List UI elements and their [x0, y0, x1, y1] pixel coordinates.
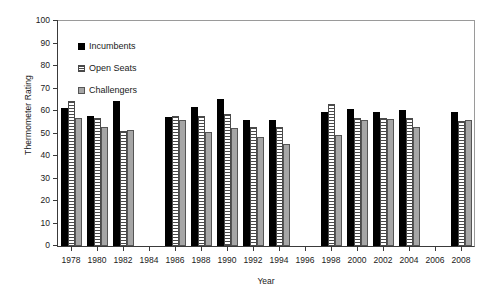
legend-item-challengers: Challengers: [78, 82, 137, 98]
bar-challengers-1994: [283, 144, 290, 246]
y-tick-label: 70: [24, 83, 50, 94]
bar-open-2000: [354, 118, 361, 246]
legend-label-challengers: Challengers: [89, 85, 137, 95]
y-tick-mark: [53, 20, 58, 21]
x-tick-mark: [305, 246, 306, 251]
bar-challengers-2008: [465, 120, 472, 246]
y-tick-label: 20: [24, 195, 50, 206]
y-tick-label: 100: [24, 15, 50, 26]
y-tick-label: 60: [24, 105, 50, 116]
bar-challengers-2002: [387, 119, 394, 246]
bar-incumbents-1990: [217, 99, 224, 246]
bar-incumbents-1994: [269, 120, 276, 246]
y-tick-mark: [53, 88, 58, 89]
x-tick-mark: [149, 246, 150, 251]
bar-open-2008: [458, 121, 465, 246]
y-tick-mark: [53, 110, 58, 111]
thermometer-rating-bar-chart: Thermometer Rating 010203040506070809010…: [0, 0, 497, 302]
x-tick-mark: [175, 246, 176, 251]
x-tick-mark: [383, 246, 384, 251]
chart-legend: IncumbentsOpen SeatsChallengers: [78, 38, 137, 104]
bar-challengers-1998: [335, 135, 342, 246]
legend-swatch-incumbents-icon: [78, 43, 85, 50]
bar-incumbents-1978: [61, 108, 68, 246]
legend-swatch-open-icon: [78, 65, 85, 72]
bar-open-2004: [406, 118, 413, 246]
y-tick-label: 50: [24, 128, 50, 139]
y-tick-mark: [53, 43, 58, 44]
legend-label-incumbents: Incumbents: [89, 41, 136, 51]
bar-open-2002: [380, 118, 387, 246]
y-tick-label: 30: [24, 173, 50, 184]
y-tick-mark: [53, 133, 58, 134]
bar-incumbents-1986: [165, 117, 172, 246]
y-tick-label: 90: [24, 38, 50, 49]
x-tick-mark: [435, 246, 436, 251]
x-tick-mark: [279, 246, 280, 251]
bar-open-1980: [94, 118, 101, 246]
y-tick-label: 0: [24, 240, 50, 251]
legend-item-incumbents: Incumbents: [78, 38, 137, 54]
y-tick-mark: [53, 178, 58, 179]
x-tick-mark: [331, 246, 332, 251]
legend-label-open: Open Seats: [89, 63, 137, 73]
bar-incumbents-1982: [113, 101, 120, 246]
y-tick-mark: [53, 200, 58, 201]
bar-open-1978: [68, 101, 75, 246]
bar-challengers-2004: [413, 127, 420, 246]
legend-swatch-challengers-icon: [78, 87, 85, 94]
bar-incumbents-1992: [243, 120, 250, 246]
bar-incumbents-2008: [451, 112, 458, 246]
bar-challengers-1992: [257, 137, 264, 246]
x-tick-mark: [97, 246, 98, 251]
bar-incumbents-2000: [347, 109, 354, 246]
bar-open-1994: [276, 127, 283, 246]
bar-incumbents-1980: [87, 116, 94, 247]
x-tick-mark: [357, 246, 358, 251]
x-tick-mark: [71, 246, 72, 251]
bar-incumbents-1988: [191, 107, 198, 247]
bar-challengers-1982: [127, 130, 134, 246]
bar-open-1986: [172, 116, 179, 247]
bar-open-1998: [328, 104, 335, 246]
bar-challengers-1978: [75, 118, 82, 246]
x-tick-mark: [253, 246, 254, 251]
y-tick-mark: [53, 65, 58, 66]
y-tick-mark: [53, 155, 58, 156]
bar-challengers-1988: [205, 132, 212, 246]
bar-open-1992: [250, 127, 257, 246]
bar-incumbents-2004: [399, 110, 406, 246]
bar-open-1982: [120, 131, 127, 246]
bar-incumbents-1998: [321, 112, 328, 246]
y-tick-label: 10: [24, 218, 50, 229]
x-tick-label: 2008: [443, 255, 479, 266]
bar-challengers-2000: [361, 120, 368, 246]
bar-open-1990: [224, 114, 231, 246]
bar-open-1988: [198, 116, 205, 247]
y-tick-label: 80: [24, 60, 50, 71]
x-axis-title: Year: [57, 276, 475, 286]
x-tick-mark: [201, 246, 202, 251]
y-tick-mark: [53, 223, 58, 224]
x-tick-mark: [409, 246, 410, 251]
x-tick-mark: [461, 246, 462, 251]
y-tick-label: 40: [24, 150, 50, 161]
y-tick-mark: [53, 245, 58, 246]
legend-item-open: Open Seats: [78, 60, 137, 76]
bar-challengers-1986: [179, 120, 186, 246]
x-tick-mark: [123, 246, 124, 251]
x-tick-mark: [227, 246, 228, 251]
bar-challengers-1990: [231, 128, 238, 246]
bar-challengers-1980: [101, 127, 108, 246]
bar-incumbents-2002: [373, 112, 380, 246]
